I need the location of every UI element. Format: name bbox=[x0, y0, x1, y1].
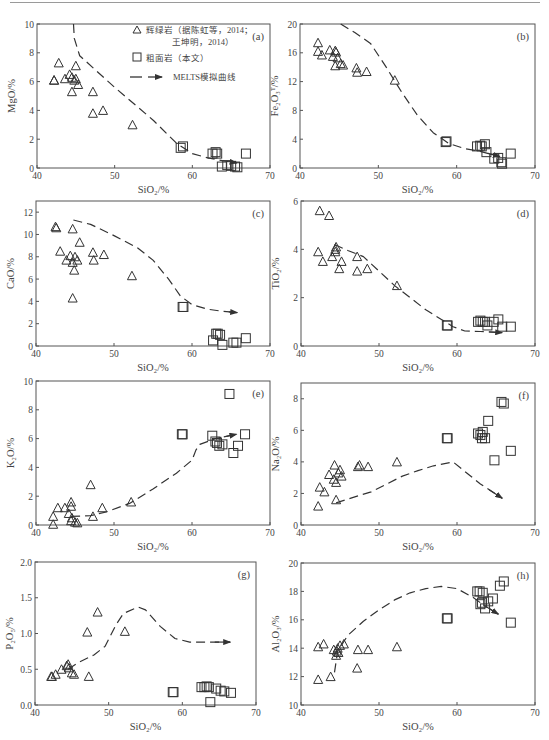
triangle-marker-icon bbox=[99, 106, 108, 115]
x-tick-label: 70 bbox=[265, 171, 275, 181]
y-tick-label: 12 bbox=[24, 208, 34, 218]
y-tick-label: 0 bbox=[29, 164, 34, 174]
triangle-marker-icon bbox=[315, 206, 324, 215]
triangle-marker-icon bbox=[88, 248, 97, 256]
x-tick-label: 50 bbox=[109, 349, 119, 359]
legend-item-melts: MELTS模拟曲线 bbox=[130, 72, 236, 82]
x-axis-label: SiO₂/% bbox=[402, 184, 434, 195]
triangle-marker-icon bbox=[128, 120, 137, 129]
x-axis-label: SiO₂/% bbox=[138, 184, 170, 195]
y-tick-label: 6 bbox=[28, 275, 33, 285]
y-axis-label: CaO/% bbox=[5, 258, 16, 289]
triangle-marker-icon bbox=[84, 672, 93, 681]
x-tick-label: 50 bbox=[374, 171, 384, 181]
y-tick-label: 10 bbox=[24, 230, 34, 240]
x-tick-label: 60 bbox=[187, 349, 197, 359]
square-marker-icon bbox=[443, 434, 452, 443]
triangle-marker-icon bbox=[127, 497, 136, 506]
x-tick-label: 50 bbox=[110, 171, 120, 181]
melts-curve bbox=[335, 586, 499, 672]
melts-curve bbox=[73, 220, 237, 313]
panel-label: (g) bbox=[238, 569, 251, 581]
triangle-marker-icon bbox=[325, 211, 334, 220]
y-tick-label: 16 bbox=[288, 48, 298, 58]
triangle-marker-icon bbox=[93, 608, 102, 617]
x-tick-label: 60 bbox=[452, 171, 462, 181]
y-tick-label: 8 bbox=[293, 394, 298, 404]
square-marker-icon bbox=[442, 434, 451, 443]
x-tick-label: 50 bbox=[374, 349, 384, 359]
triangle-marker-icon bbox=[133, 26, 141, 33]
square-marker-icon bbox=[202, 682, 211, 691]
square-marker-icon bbox=[490, 456, 499, 465]
square-marker-icon bbox=[218, 340, 227, 349]
x-tick-label: 60 bbox=[188, 171, 198, 181]
y-tick-label: 16 bbox=[289, 615, 299, 625]
chart-panel-f: 4050607002468SiO₂/%Na₂O/%(f) bbox=[270, 383, 540, 552]
square-marker-icon bbox=[177, 430, 186, 439]
panel-label: (c) bbox=[252, 208, 264, 220]
legend-diabase-label-cont: 王坤明，2014） bbox=[172, 37, 234, 47]
triangle-marker-icon bbox=[75, 238, 84, 247]
triangle-marker-icon bbox=[88, 87, 97, 96]
triangle-marker-icon bbox=[326, 672, 335, 681]
triangle-marker-icon bbox=[314, 675, 323, 684]
geochemistry-scatter-figure: 405060700246810SiO₂/%MgO/%(a)40506070048… bbox=[0, 0, 549, 740]
plot-frame bbox=[36, 201, 270, 346]
arrow-icon bbox=[224, 434, 237, 437]
legend-melts-label: MELTS模拟曲线 bbox=[173, 72, 236, 82]
triangle-marker-icon bbox=[318, 257, 327, 266]
square-marker-icon bbox=[241, 149, 250, 158]
square-marker-icon bbox=[179, 302, 188, 311]
y-tick-label: 4 bbox=[29, 106, 34, 116]
y-tick-label: 0.0 bbox=[20, 701, 32, 711]
square-marker-icon bbox=[169, 688, 178, 697]
triangle-marker-icon bbox=[362, 67, 371, 76]
chart-panel-d: 405060700246SiO₂/%TiO₂/%(d) bbox=[270, 197, 540, 374]
triangle-marker-icon bbox=[83, 628, 92, 637]
x-tick-label: 70 bbox=[530, 171, 540, 181]
x-tick-label: 70 bbox=[530, 708, 540, 718]
chart-panel-g: 405060700.00.51.01.52.0SiO₂/%P₂O₅/%(g) bbox=[4, 558, 261, 733]
panel-label: (d) bbox=[517, 208, 530, 220]
square-marker-icon bbox=[133, 53, 141, 61]
y-tick-label: 0 bbox=[293, 342, 298, 352]
triangle-marker-icon bbox=[86, 480, 95, 489]
square-marker-icon bbox=[225, 389, 234, 398]
y-tick-label: 6 bbox=[293, 197, 298, 207]
triangle-marker-icon bbox=[54, 58, 63, 66]
triangle-marker-icon bbox=[99, 250, 108, 258]
triangle-marker-icon bbox=[71, 61, 80, 70]
x-tick-label: 60 bbox=[187, 528, 197, 538]
arrow-icon bbox=[229, 312, 237, 313]
triangle-marker-icon bbox=[50, 76, 59, 85]
y-tick-label: 6 bbox=[29, 77, 34, 87]
triangle-marker-icon bbox=[363, 264, 372, 273]
x-tick-label: 60 bbox=[452, 528, 462, 538]
x-tick-label: 50 bbox=[109, 528, 119, 538]
x-axis-label: SiO₂/% bbox=[137, 362, 169, 373]
triangle-marker-icon bbox=[337, 257, 346, 266]
square-marker-icon bbox=[178, 302, 187, 311]
melts-curve bbox=[341, 24, 500, 157]
legend-trachyte-label: 粗面岩（本文） bbox=[146, 53, 209, 63]
square-marker-icon bbox=[506, 322, 515, 331]
triangle-marker-icon bbox=[98, 503, 107, 512]
x-tick-label: 50 bbox=[374, 528, 384, 538]
triangle-marker-icon bbox=[337, 472, 346, 481]
panel-label: (f) bbox=[519, 390, 530, 402]
panel-label: (a) bbox=[252, 31, 264, 43]
x-tick-label: 70 bbox=[251, 708, 261, 718]
x-tick-label: 70 bbox=[265, 528, 275, 538]
square-marker-icon bbox=[178, 430, 187, 439]
x-axis-label: SiO₂/% bbox=[130, 721, 162, 732]
y-axis-label: K₂O/% bbox=[5, 438, 16, 469]
triangle-marker-icon bbox=[364, 645, 373, 654]
y-axis-label: P₂O₅/% bbox=[4, 617, 15, 650]
y-tick-label: 1.0 bbox=[20, 629, 32, 639]
plot-frame bbox=[35, 562, 256, 705]
y-tick-label: 18 bbox=[289, 587, 299, 597]
arrow-icon bbox=[489, 490, 502, 499]
arrow-icon bbox=[489, 332, 502, 333]
chart-panel-e: 405060700246810SiO₂/%K₂O/%(e) bbox=[5, 377, 275, 553]
